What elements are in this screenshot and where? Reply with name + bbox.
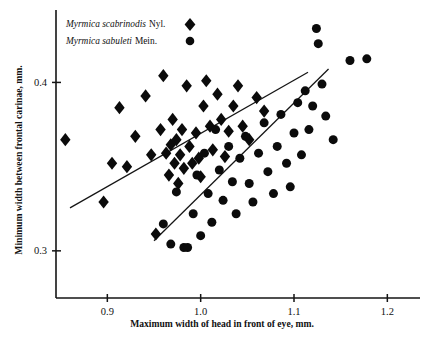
legend: Myrmica scabrinodisNyl. Myrmica sabuleti…	[65, 18, 195, 46]
data-point-diamond	[181, 79, 191, 92]
data-point-circle	[204, 189, 213, 198]
data-point-circle	[248, 198, 257, 207]
data-point-diamond	[259, 104, 269, 117]
y-tick-label: 0.4	[34, 77, 48, 88]
data-point-circle	[293, 98, 302, 107]
data-point-diamond	[223, 125, 233, 138]
data-point-circle	[263, 167, 272, 176]
data-point-circle	[301, 86, 310, 95]
data-point-circle	[166, 240, 175, 249]
data-point-circle	[308, 102, 317, 111]
data-point-circle	[183, 243, 192, 252]
figure-panel: Myrmica scabrinodisNyl. Myrmica sabuleti…	[0, 0, 435, 354]
data-point-diamond	[233, 79, 243, 92]
data-point-diamond	[107, 157, 117, 170]
data-point-diamond	[60, 133, 70, 146]
legend-authority-scabrinodis: Nyl.	[149, 19, 165, 29]
data-point-diamond	[155, 123, 165, 136]
data-point-circle	[245, 179, 254, 188]
data-point-circle	[172, 187, 181, 196]
data-point-circle	[304, 125, 313, 134]
data-point-diamond	[122, 160, 132, 173]
data-point-circle	[219, 196, 228, 205]
data-point-circle	[346, 56, 355, 65]
data-point-diamond	[140, 89, 150, 102]
data-point-diamond	[177, 123, 187, 136]
data-point-diamond	[151, 227, 161, 240]
data-point-circle	[269, 189, 278, 198]
y-axis-title: Minimum width between frontal carinae, m…	[13, 65, 24, 254]
data-point-circle	[241, 132, 250, 141]
data-point-circle	[196, 231, 205, 240]
legend-marker-diamond	[185, 18, 196, 31]
data-point-diamond	[212, 88, 222, 101]
data-point-diamond	[220, 150, 230, 163]
scatter-plot: Myrmica scabrinodisNyl. Myrmica sabuleti…	[0, 0, 435, 354]
y-tick-label: 0.3	[34, 245, 47, 256]
data-point-diamond	[201, 74, 211, 87]
data-point-circle	[312, 24, 321, 33]
scabrinodis-regression	[70, 72, 308, 208]
data-point-diamond	[164, 168, 174, 181]
series-sabuleti-points	[159, 24, 371, 252]
data-point-diamond	[251, 91, 261, 104]
data-point-circle	[228, 177, 237, 186]
data-point-circle	[318, 80, 327, 89]
data-point-circle	[215, 166, 224, 175]
data-point-circle	[362, 54, 371, 63]
legend-label-scabrinodis: Myrmica scabrinodisNyl.	[65, 19, 165, 29]
data-point-diamond	[228, 99, 238, 112]
y-axis-ticks: 0.30.4	[34, 77, 61, 256]
data-point-circle	[329, 135, 338, 144]
data-point-circle	[314, 39, 323, 48]
legend-species-scabrinodis: Myrmica scabrinodis	[65, 19, 146, 29]
data-point-circle	[207, 218, 216, 227]
data-point-diamond	[158, 69, 168, 82]
data-point-diamond	[114, 101, 124, 114]
data-point-circle	[200, 149, 209, 158]
data-point-circle	[276, 110, 285, 119]
x-tick-label: 1.2	[381, 306, 394, 317]
legend-authority-sabuleti: Mein.	[135, 36, 157, 46]
data-point-circle	[282, 159, 291, 168]
data-point-circle	[273, 142, 282, 151]
x-tick-label: 1.1	[287, 306, 300, 317]
data-point-circle	[232, 209, 241, 218]
data-point-diamond	[198, 99, 208, 112]
legend-label-sabuleti: Myrmica sabuletiMein.	[65, 36, 157, 46]
data-point-circle	[290, 128, 299, 137]
x-tick-label: 1.0	[194, 306, 207, 317]
data-point-diamond	[208, 143, 218, 156]
data-point-circle	[297, 150, 306, 159]
data-point-diamond	[237, 120, 247, 133]
data-point-circle	[254, 149, 263, 158]
data-point-circle	[321, 112, 330, 121]
data-point-circle	[235, 154, 244, 163]
legend-species-sabuleti: Myrmica sabuleti	[65, 36, 132, 46]
data-point-circle	[159, 219, 168, 228]
data-point-diamond	[167, 113, 177, 126]
data-point-circle	[286, 182, 295, 191]
legend-marker-circle	[186, 37, 195, 46]
data-point-circle	[211, 125, 220, 134]
data-point-circle	[192, 171, 201, 180]
data-point-diamond	[130, 130, 140, 143]
x-axis-title: Maximum width of head in front of eye, m…	[130, 318, 314, 329]
data-point-circle	[189, 209, 198, 218]
data-point-circle	[224, 142, 233, 151]
data-point-circle	[260, 118, 269, 127]
data-point-diamond	[98, 195, 108, 208]
x-tick-label: 0.9	[101, 306, 114, 317]
